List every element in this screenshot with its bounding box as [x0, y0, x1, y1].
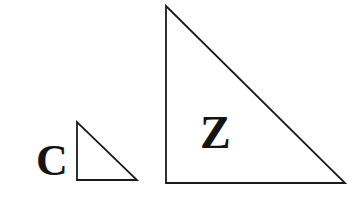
geometry-diagram: C Z [0, 0, 363, 201]
small-triangle-label: C [36, 136, 68, 185]
small-triangle-outline [77, 122, 137, 180]
large-triangle-outline [166, 6, 345, 183]
large-triangle-label: Z [200, 107, 231, 158]
figure-canvas: C Z [0, 0, 363, 201]
